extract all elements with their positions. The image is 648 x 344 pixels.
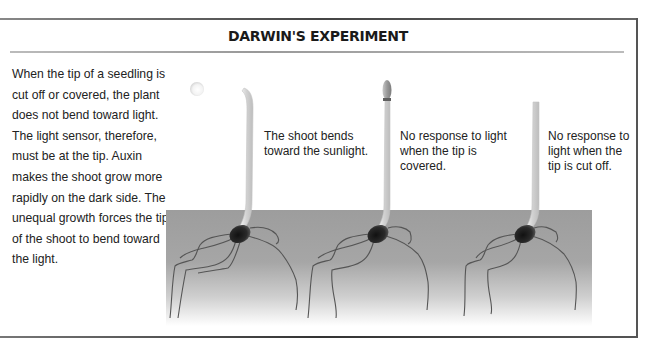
sun-light-icon	[190, 82, 204, 96]
seedling-intact	[170, 88, 298, 318]
seedling-covered	[308, 80, 428, 318]
caption-intact: The shoot bends toward the sunlight.	[264, 129, 374, 159]
tip-cover-icon	[383, 80, 392, 101]
caption-covered: No response to light when the tip is cov…	[400, 129, 520, 174]
caption-cut: No response to light when the tip is cut…	[548, 129, 638, 174]
